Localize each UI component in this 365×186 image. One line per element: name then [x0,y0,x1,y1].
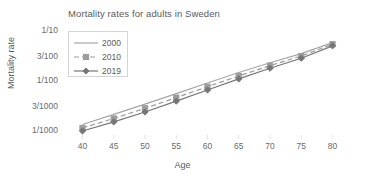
data-point-marker [83,54,88,59]
data-point-marker [83,68,89,74]
legend-swatch-icon [73,36,99,50]
legend-item-2010[interactable]: 2010 [69,50,129,64]
legend-swatch-icon [73,64,99,78]
legend-item-2000[interactable]: 2000 [69,36,129,50]
legend-item-2019[interactable]: 2019 [69,64,129,78]
legend-label: 2019 [102,66,121,76]
legend-swatch-icon [73,50,99,64]
chart-legend: 200020102019 [68,31,128,77]
mortality-rate-line-chart: Mortality rates for adults in Sweden Mor… [0,0,365,186]
legend-label: 2010 [102,52,121,62]
plot-area [0,0,365,186]
legend-label: 2000 [102,38,121,48]
